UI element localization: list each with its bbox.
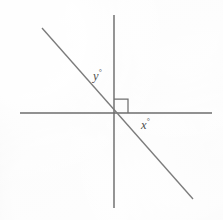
degree-symbol-icon: ° — [99, 68, 102, 77]
degree-symbol-icon: ° — [147, 117, 150, 126]
diagram-canvas — [0, 0, 223, 220]
geometry-figure: y° x° — [0, 0, 223, 220]
angle-label-x: x° — [141, 118, 150, 132]
angle-label-y: y° — [93, 69, 102, 83]
